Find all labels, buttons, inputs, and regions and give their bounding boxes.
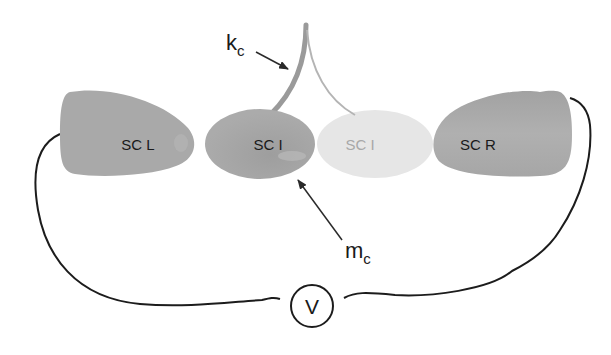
cantilever-spring <box>270 25 355 115</box>
sc-right-electrode: SC R <box>433 91 572 177</box>
svg-text:kc: kc <box>226 30 245 59</box>
sc-island-label: SC I <box>253 136 282 153</box>
mc-subscript: c <box>363 250 371 267</box>
sc-island: SC I <box>205 109 315 179</box>
sc-left-label: SC L <box>121 136 154 153</box>
mc-label: m <box>345 238 363 263</box>
mc-annotation: mc <box>298 180 371 267</box>
voltmeter-label: V <box>305 295 319 318</box>
nems-shuttle-diagram: SC L SC I SC I SC R kc mc V <box>0 0 611 355</box>
kc-annotation: kc <box>226 30 288 69</box>
sc-island-ghost-label: SC I <box>345 136 374 153</box>
kc-arrow <box>256 52 288 69</box>
voltmeter: V <box>291 285 333 327</box>
sc-island-ghost: SC I <box>317 110 433 178</box>
sc-left-electrode: SC L <box>60 90 194 176</box>
mc-arrow <box>298 180 342 240</box>
svg-text:mc: mc <box>345 238 371 267</box>
kc-subscript: c <box>237 42 245 59</box>
sc-right-label: SC R <box>460 136 496 153</box>
